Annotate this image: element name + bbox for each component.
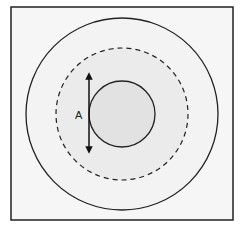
label-a: A xyxy=(75,109,83,121)
inner-circle xyxy=(89,81,155,147)
concentric-circles-diagram: A xyxy=(0,0,240,228)
